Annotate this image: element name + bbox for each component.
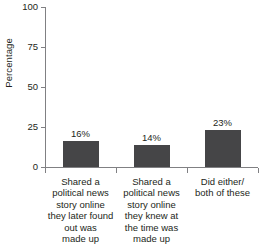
bar-value-label-0: 16% [56, 128, 106, 139]
x-category-label-line: they later found [43, 210, 118, 221]
x-category-label-line: out was [43, 222, 118, 233]
x-category-label-line: political news [43, 187, 118, 198]
x-category-label-1: Shared apolitical newsstory onlinethey k… [114, 176, 189, 244]
bar-value-label-2: 23% [198, 117, 248, 128]
x-category-label-line: Shared a [114, 176, 189, 187]
x-axis-line [45, 167, 258, 168]
y-tick-100 [41, 7, 45, 8]
x-category-label-line: story online [114, 199, 189, 210]
bar-chart: Percentage 100 75 50 25 0 16% 14% 23% Sh… [0, 0, 270, 252]
x-category-label-line: made up [114, 233, 189, 244]
bar-shared-knew-at-time [134, 145, 170, 167]
y-tick-label-0: 0 [8, 162, 38, 172]
x-category-label-0: Shared apolitical newsstory onlinethey l… [43, 176, 118, 244]
x-tick-2 [187, 168, 188, 173]
y-axis-line [45, 7, 46, 168]
x-category-label-line: the time was [114, 222, 189, 233]
y-tick-label-100: 100 [8, 2, 38, 12]
x-category-label-line: both of these [185, 187, 260, 198]
y-tick-label-50: 50 [8, 82, 38, 92]
x-category-label-line: story online [43, 199, 118, 210]
x-category-label-line: they knew at [114, 210, 189, 221]
y-tick-label-25: 25 [8, 122, 38, 132]
bar-shared-later-found-out [63, 141, 99, 167]
x-category-label-line: made up [43, 233, 118, 244]
x-category-label-line: Did either/ [185, 176, 260, 187]
bar-value-label-1: 14% [127, 132, 177, 143]
x-tick-3 [258, 168, 259, 173]
x-tick-1 [116, 168, 117, 173]
y-tick-50 [41, 87, 45, 88]
x-category-label-line: Shared a [43, 176, 118, 187]
y-tick-25 [41, 127, 45, 128]
x-category-label-2: Did either/both of these [185, 176, 260, 199]
y-tick-label-75: 75 [8, 42, 38, 52]
y-tick-75 [41, 47, 45, 48]
x-category-label-line: political news [114, 187, 189, 198]
bar-did-either-both [205, 130, 241, 167]
x-tick-0 [45, 168, 46, 173]
